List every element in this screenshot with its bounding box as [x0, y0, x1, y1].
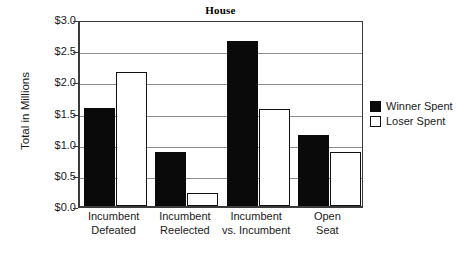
bar-loser — [116, 72, 147, 206]
chart-container: House Total in Millions $0.0$0.5$1.0$1.5… — [0, 0, 475, 262]
bar-winner — [84, 108, 115, 206]
plot-area — [78, 21, 363, 208]
x-axis-label-line: Seat — [284, 224, 371, 238]
legend-item[interactable]: Winner Spent — [370, 100, 453, 112]
y-tick-label: $3.0 — [16, 14, 76, 26]
x-axis-labels: IncumbentDefeatedIncumbentReelectedIncum… — [78, 210, 363, 255]
legend-item[interactable]: Loser Spent — [370, 115, 453, 127]
bar-loser — [187, 193, 218, 206]
bar-winner — [155, 152, 186, 206]
x-axis-category-label: OpenSeat — [284, 210, 371, 237]
y-tick-label: $1.0 — [16, 139, 76, 151]
bar-loser — [330, 152, 361, 206]
y-tick-mark — [73, 208, 78, 209]
legend-label: Winner Spent — [386, 100, 453, 112]
bar-loser — [259, 109, 290, 206]
chart-legend: Winner SpentLoser Spent — [370, 100, 453, 130]
x-axis-label-line: Open — [284, 210, 371, 224]
chart-title: House — [78, 4, 363, 16]
bar-winner — [227, 41, 258, 206]
y-tick-label: $0.0 — [16, 201, 76, 213]
y-tick-label: $2.5 — [16, 45, 76, 57]
legend-swatch-loser-icon — [370, 116, 381, 127]
bar-winner — [298, 135, 329, 206]
y-tick-label: $0.5 — [16, 170, 76, 182]
legend-label: Loser Spent — [386, 115, 445, 127]
legend-swatch-winner-icon — [370, 101, 381, 112]
bar-series-layer — [80, 22, 362, 206]
y-tick-label: $1.5 — [16, 108, 76, 120]
y-tick-label: $2.0 — [16, 76, 76, 88]
